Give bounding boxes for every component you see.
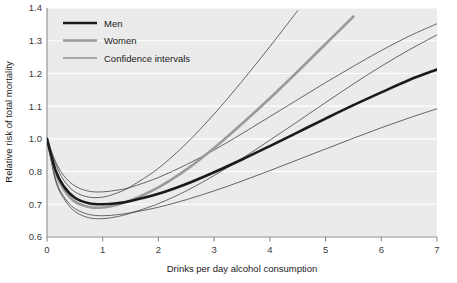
legend-label-men: Men [104,18,122,29]
chart-figure: 1.41.31.21.11.00.80.70.6 01234567 Drinks… [0,0,457,283]
x-tick-label: 2 [156,244,161,255]
legend-label-women: Women [104,35,137,46]
x-axis-title: Drinks per day alcohol consumption [167,263,318,274]
y-tick-label: 1.1 [29,101,42,112]
y-tick-label: 0.8 [29,166,42,177]
x-tick-label: 3 [211,244,216,255]
y-tick-label: 1.4 [29,2,42,13]
x-tick-label: 6 [379,244,384,255]
x-axis-tick-labels: 01234567 [44,244,439,255]
y-tick-label: 0.7 [29,199,42,210]
y-tick-label: 1.2 [29,68,42,79]
legend-label-confidence-intervals: Confidence intervals [104,53,190,64]
x-tick-label: 4 [267,244,272,255]
y-axis-tick-labels: 1.41.31.21.11.00.80.70.6 [29,2,42,242]
relative-risk-line-chart: 1.41.31.21.11.00.80.70.6 01234567 Drinks… [0,0,457,283]
y-tick-label: 1.0 [29,133,42,144]
x-tick-label: 1 [100,244,105,255]
y-tick-label: 1.3 [29,35,42,46]
x-axis-ticks [47,237,437,242]
y-tick-label: 0.6 [29,231,42,242]
x-tick-label: 5 [323,244,328,255]
x-tick-label: 0 [44,244,49,255]
x-tick-label: 7 [434,244,439,255]
y-axis-title: Relative risk of total mortality [3,61,14,183]
